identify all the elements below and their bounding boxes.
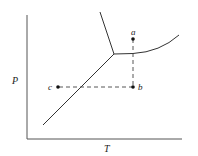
point-a (131, 37, 135, 41)
solid-gas-line (43, 54, 114, 125)
point-a-label: a (131, 27, 136, 37)
x-axis-label: T (104, 143, 111, 154)
point-c (56, 85, 60, 89)
point-b (131, 85, 135, 89)
solid-liquid-line (100, 12, 114, 54)
liquid-gas-curve (114, 35, 179, 54)
phase-diagram: a b c P T (0, 0, 198, 156)
point-c-label: c (48, 82, 52, 92)
y-axis-label: P (11, 75, 18, 86)
point-b-label: b (138, 82, 143, 92)
